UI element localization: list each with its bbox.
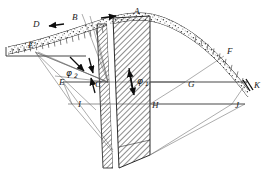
label-E-prime: E' xyxy=(27,40,36,50)
label-H: H xyxy=(151,100,159,110)
angle-phi2: φ 2 xyxy=(66,68,78,79)
phi2-subscript: 2 xyxy=(74,72,78,79)
label-K: K xyxy=(253,80,261,90)
diagram-canvas: D B A F K E' E C G I H J φ 2 φ 1 xyxy=(0,0,267,185)
label-A: A xyxy=(133,6,140,16)
label-J: J xyxy=(235,100,240,110)
label-D: D xyxy=(32,19,40,29)
phi1-symbol: φ xyxy=(137,76,143,86)
arrow-shear-left-down xyxy=(89,58,93,73)
label-B: B xyxy=(72,12,78,22)
fault-block-main xyxy=(113,16,150,168)
arrow-top-left xyxy=(49,24,64,26)
figure-root: D B A F K E' E C G I H J φ 2 φ 1 xyxy=(0,0,267,185)
label-E: E xyxy=(58,77,65,87)
phi2-symbol: φ xyxy=(66,68,72,78)
phi1-subscript: 1 xyxy=(145,80,149,87)
label-C: C xyxy=(95,79,102,89)
label-G: G xyxy=(188,79,195,89)
label-F: F xyxy=(226,46,233,56)
